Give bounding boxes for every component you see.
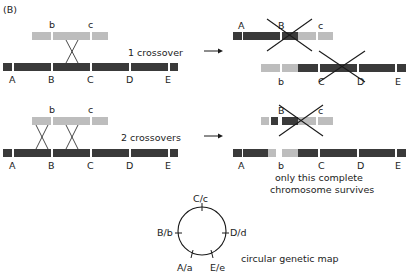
row2-result-label-b: b — [278, 160, 284, 171]
row1-top-label-c: c — [88, 19, 93, 30]
map-caption: circular genetic map — [241, 253, 339, 264]
row1-result-label-E: E — [395, 76, 401, 87]
genetic-crossover-diagram: (B) b c A B C D E 1 crossover A B c — [0, 0, 409, 276]
row1-donor-fragment — [32, 32, 108, 40]
map-label-A: A/a — [177, 262, 193, 273]
row2-label-E: E — [165, 160, 171, 171]
circular-genetic-map — [175, 203, 229, 258]
survival-note-line2: chromosome survives — [270, 184, 374, 195]
map-label-B: B/b — [157, 227, 173, 238]
row1-recipient-chromosome — [3, 63, 178, 71]
row1-result-fragment-bottom — [261, 64, 406, 72]
row2-label-B: B — [48, 160, 55, 171]
row1-arrow-icon — [204, 49, 223, 54]
row2-crossover-lines — [36, 125, 78, 149]
row2-top-label-b: b — [49, 104, 55, 115]
survival-note-line1: only this complete — [275, 172, 363, 183]
row1-result-label-b: b — [278, 76, 284, 87]
row2-result-label-C: C — [318, 160, 325, 171]
row1-result-label-c: c — [318, 20, 323, 31]
row2-result-label-D: D — [357, 160, 364, 171]
row2-recipient-chromosome — [3, 149, 178, 157]
row1-label-D: D — [126, 74, 133, 85]
row1-label-E: E — [165, 74, 171, 85]
map-label-E: E/e — [210, 262, 225, 273]
row1-label-C: C — [87, 74, 94, 85]
row1-result-fragment-top — [233, 32, 333, 40]
row2-top-label-c: c — [88, 104, 93, 115]
row2-label-D: D — [126, 160, 133, 171]
map-label-C: C/c — [193, 193, 208, 204]
row1-label-B: B — [48, 74, 55, 85]
row2-label-A: A — [9, 160, 16, 171]
row1-result-label-A: A — [238, 20, 245, 31]
row2-donor-fragment — [32, 117, 108, 125]
row1-caption: 1 crossover — [128, 47, 183, 58]
row2-result-label-A: A — [238, 160, 245, 171]
row2-caption: 2 crossovers — [121, 132, 181, 143]
row1-top-label-b: b — [49, 19, 55, 30]
row2-surviving-chromosome — [233, 149, 406, 157]
row2-label-C: C — [87, 160, 94, 171]
panel-label: (B) — [3, 4, 17, 15]
row2-arrow-icon — [204, 134, 223, 139]
row2-result-label-E: E — [395, 160, 401, 171]
map-label-D: D/d — [230, 227, 247, 238]
row1-label-A: A — [9, 74, 16, 85]
row1-crossover-lines — [66, 40, 78, 63]
